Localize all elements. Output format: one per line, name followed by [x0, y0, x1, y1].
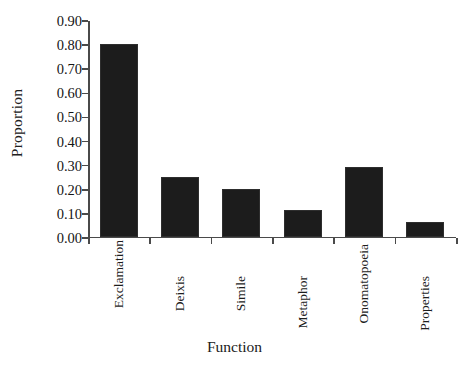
y-axis-tick-mark: [82, 44, 88, 46]
y-axis-tick-label: 0.80: [36, 38, 82, 53]
y-axis-tick-labels: 0.000.100.200.300.400.500.600.700.800.90: [36, 0, 82, 368]
x-axis-category-labels: ExclamationDeixisSimileMetaphorOnomatopo…: [88, 240, 456, 340]
x-axis-title-label: Function: [207, 338, 262, 355]
x-axis-category-label-text: Simile: [233, 276, 249, 311]
x-axis-category-label: Exclamation: [112, 240, 126, 340]
y-axis-tick-label: 0.90: [36, 14, 82, 29]
y-axis-tick-mark: [82, 189, 88, 191]
y-axis-tick-label: 0.50: [36, 110, 82, 125]
y-axis-tick-label: 0.20: [36, 183, 82, 198]
y-axis-tick-label: 0.30: [36, 158, 82, 173]
y-axis-tick-label: 0.70: [36, 62, 82, 77]
bar-chart: Proportion 0.000.100.200.300.400.500.600…: [0, 0, 469, 368]
bar: [161, 177, 199, 236]
x-axis-category-label-text: Metaphor: [295, 276, 311, 328]
bar: [284, 210, 322, 236]
y-axis-title-label: Proportion: [8, 88, 26, 156]
x-axis-category-label-text: Exclamation: [111, 240, 127, 308]
x-axis-category-label-text: Properties: [417, 276, 433, 331]
bar: [100, 44, 138, 237]
y-axis-tick-label: 0.00: [36, 231, 82, 246]
bar: [222, 189, 260, 236]
y-axis-tick-mark: [82, 165, 88, 167]
x-axis-tick-mark: [456, 238, 458, 244]
x-axis-category-label: Onomatopoeia: [357, 244, 371, 344]
y-axis-title: Proportion: [0, 0, 34, 245]
y-axis-tick-mark: [82, 20, 88, 22]
x-axis-category-label-text: Onomatopoeia: [356, 244, 372, 323]
bar: [406, 222, 444, 237]
y-axis-tick-mark: [82, 93, 88, 95]
x-axis-title: Function: [0, 338, 469, 356]
y-axis-tick-label: 0.60: [36, 86, 82, 101]
y-axis-tick-mark: [82, 68, 88, 70]
y-axis-tick-mark: [82, 141, 88, 143]
y-axis-tick-label: 0.10: [36, 207, 82, 222]
x-axis-category-label-text: Deixis: [172, 276, 188, 311]
y-axis-tick-mark: [82, 117, 88, 119]
y-axis-line: [88, 21, 90, 238]
y-axis-tick-mark: [82, 213, 88, 215]
plot-area: [88, 21, 456, 238]
y-axis-tick-label: 0.40: [36, 134, 82, 149]
bar: [345, 167, 383, 237]
